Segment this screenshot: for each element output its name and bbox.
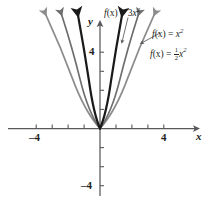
eq2-eq: =	[168, 29, 176, 39]
eq3-eq: =	[166, 49, 174, 59]
x-tick-label-neg4: –4	[29, 132, 40, 143]
x-tick-label-4: 4	[161, 132, 167, 143]
label-f-x-squared: f(x) = x2	[152, 28, 183, 40]
eq3-fraction-one-half: 12	[174, 47, 178, 61]
y-tick-label-4: 4	[89, 46, 95, 57]
curve-3x2-left	[77, 11, 100, 129]
eq3-denominator: 2	[174, 55, 178, 62]
parabola-comparison-figure: f(x) = 3x2 f(x) = x2 f(x) = 12x2 y x –4 …	[0, 0, 210, 202]
y-axis-label: y	[88, 16, 93, 27]
eq2-arg: (x)	[155, 29, 166, 39]
y-tick-label-neg4: –4	[81, 180, 92, 191]
eq1-exp: 2	[137, 6, 140, 13]
eq3-exp: 2	[183, 46, 186, 53]
label-f-half-x-squared: f(x) = 12x2	[150, 47, 187, 61]
y-axis	[100, 25, 104, 196]
x-axis-label: x	[196, 131, 202, 142]
eq1-arg: (x)	[107, 8, 118, 18]
eq3-arg: (x)	[153, 49, 164, 59]
curve-half-right	[100, 12, 156, 129]
curve-half-left	[44, 12, 100, 129]
eq2-exp: 2	[180, 27, 183, 34]
eq1-eq: = 3	[120, 8, 132, 18]
label-f-3x-squared: f(x) = 3x2	[104, 7, 140, 19]
leader-line-3x2	[122, 18, 128, 43]
curve-3x2-right	[100, 11, 123, 129]
